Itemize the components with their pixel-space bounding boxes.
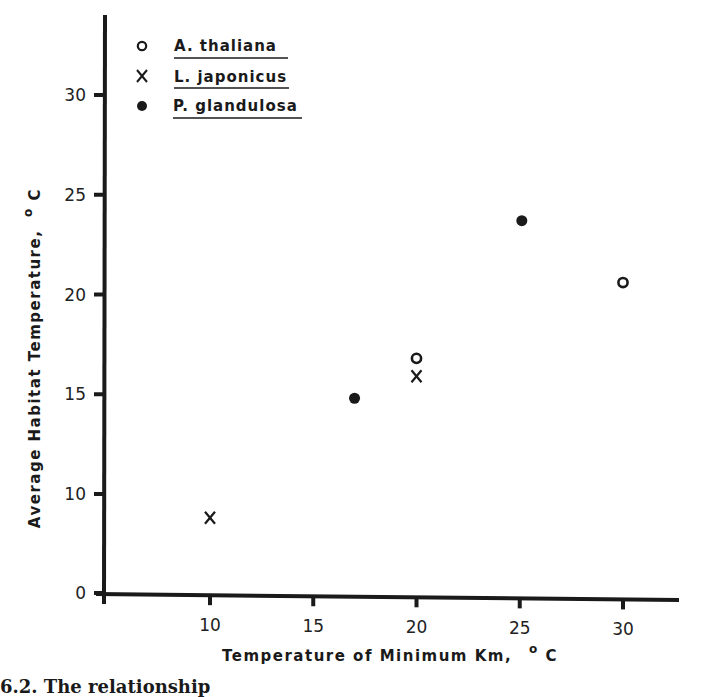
x-axis-title: Temperature of Minimum Km, o C — [222, 639, 558, 665]
y-axis-unit: C — [26, 188, 44, 201]
y-tick-label: 15 — [64, 384, 86, 404]
x-tick-label: 25 — [509, 618, 531, 638]
legend: A. thaliana L. japonicus P. glandulosa — [137, 37, 302, 118]
filled-circle-marker — [349, 393, 360, 404]
y-ticks: 01015202530 — [64, 85, 105, 603]
legend-label: P. glandulosa — [173, 97, 298, 115]
legend-item-l-japonicus: L. japonicus — [137, 68, 289, 88]
x-ticks: 1015202530 — [199, 595, 634, 639]
y-tick-label: 30 — [64, 85, 86, 105]
filled-circle-marker — [516, 215, 527, 226]
x-marker — [205, 512, 215, 524]
x-marker-icon — [137, 70, 147, 82]
y-axis-title: Average Habitat Temperature, o C — [18, 188, 44, 528]
legend-item-p-glandulosa: P. glandulosa — [137, 97, 302, 118]
open-circle-icon — [138, 42, 146, 50]
x-axis-line — [96, 594, 679, 600]
x-axis-title-text: Temperature of Minimum Km, — [222, 647, 512, 665]
filled-circle-icon — [137, 101, 147, 111]
open-circle-marker — [618, 278, 627, 287]
x-tick-label: 30 — [612, 619, 634, 639]
data-points — [205, 215, 628, 524]
legend-label: L. japonicus — [174, 68, 287, 86]
y-axis-title-text: Average Habitat Temperature, — [26, 230, 44, 529]
svg-text:Average Habitat Temperature,: Average Habitat Temperature, o C — [18, 188, 44, 528]
svg-text:Temperature of Minimum Km,: Temperature of Minimum Km, o C — [222, 639, 558, 665]
x-axis-unit-degree: o — [529, 642, 539, 656]
x-tick-label: 10 — [199, 615, 221, 635]
y-axis-line — [104, 15, 105, 604]
open-circle-marker — [412, 354, 421, 363]
y-tick-label: 10 — [64, 484, 86, 504]
x-tick-label: 15 — [302, 616, 324, 636]
x-tick-label: 20 — [406, 617, 428, 637]
x-axis-unit: C — [545, 647, 558, 665]
legend-label: A. thaliana — [174, 37, 277, 55]
y-tick-label: 0 — [75, 583, 86, 603]
x-marker — [412, 370, 422, 382]
y-axis-unit-degree: o — [21, 207, 35, 217]
figure-caption: 6.2. The relationship — [0, 676, 210, 697]
legend-item-a-thaliana: A. thaliana — [138, 37, 288, 58]
y-tick-label: 25 — [64, 185, 86, 205]
y-tick-label: 20 — [64, 285, 86, 305]
